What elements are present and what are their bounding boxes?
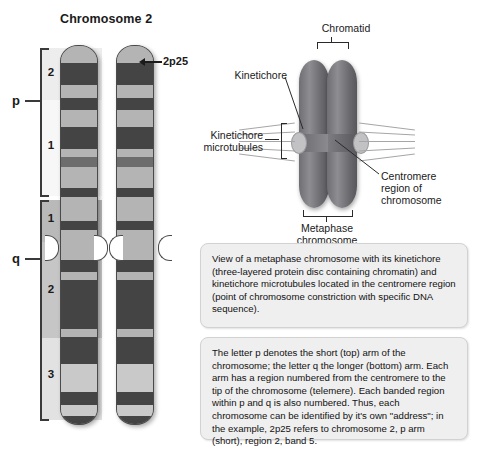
sister-chromatid-left [60,45,98,425]
microtubules-bracket [281,123,287,159]
region-number-q2: 2 [44,283,58,295]
ideogram-panel: Chromosome 2 p q 2 1 1 2 3 5 4 3 2 1 6 5… [0,0,200,467]
metaphase-bracket [303,210,353,217]
metaphase-label-line1: Metaphase [281,222,373,235]
kinetichore-microtubules-label-line1: Kinetichore [183,129,263,142]
page-title: Chromosome 2 [60,12,210,26]
p-arm-bracket [40,48,42,196]
p-arm-bracket-cap-bottom [40,195,49,197]
centromere-leader-line [335,140,385,178]
p-arm-leader-line [25,100,40,102]
kinetichore-description-box: View of a metaphase chromosome with its … [200,243,468,328]
q-arm-bracket-cap-top [40,200,49,202]
kinetichore-label: Kinetichore [197,69,287,82]
microtubule-icon [359,123,415,131]
p-arm-label: p [12,93,20,108]
chromosome-2-ideogram [58,45,158,423]
kinetichore-microtubules-label-line2: microtubules [183,141,263,154]
q-arm-label: q [12,251,20,266]
microtubules-leader-line [265,139,279,140]
centromere-constriction-inner-left [94,235,108,261]
region-number-p2: 2 [44,66,58,78]
q-arm-bracket-cap-bottom [40,419,49,421]
chromatid-bracket [317,42,349,49]
nomenclature-description-box: The letter p denotes the short (top) arm… [200,337,468,440]
centromere-label-line3: chromosome [381,194,461,207]
region-number-q3: 3 [44,368,58,380]
region-number-q1: 1 [44,212,58,224]
region-number-p1: 1 [44,139,58,151]
arrow-icon [144,61,162,63]
centromere-constriction-outer-right [158,235,172,261]
kinetichore-leader-line [285,77,309,135]
chromatid-bracket-stem [331,37,332,43]
metaphase-chromosome-figure: Chromatid Kinetichore Kinetichore microt… [255,22,435,237]
q-arm-leader-line [25,258,40,260]
band-callout-2p25: 2p25 [163,55,188,67]
centromere-constriction-inner-right [109,235,123,261]
chromatid-label: Chromatid [301,22,391,35]
q-arm-bracket [40,200,42,420]
p-arm-bracket-cap-top [40,48,49,50]
centromere-label-line2: region of [381,182,461,195]
microtubule-icon [359,132,415,136]
centromere-label-line1: Centromere [381,170,461,183]
